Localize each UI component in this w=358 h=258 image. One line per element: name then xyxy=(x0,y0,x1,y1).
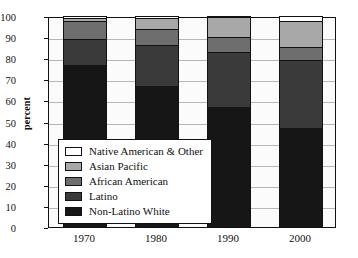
bar-segment[interactable] xyxy=(207,37,251,52)
y-axis-tick-label: 50 xyxy=(0,117,16,128)
x-axis-tick-label: 1990 xyxy=(193,232,263,244)
legend-item[interactable]: Native American & Other xyxy=(65,144,203,159)
x-axis-tick-label: 1980 xyxy=(121,232,191,244)
legend-item[interactable]: Asian Pacific xyxy=(65,159,203,174)
legend-swatch-icon xyxy=(65,147,82,156)
legend-item[interactable]: African American xyxy=(65,174,203,189)
legend-item-label: Native American & Other xyxy=(89,146,203,157)
y-axis-tick-label: 100 xyxy=(0,12,16,23)
bar-segment[interactable] xyxy=(63,39,107,64)
y-axis-tick-label: 80 xyxy=(0,54,16,65)
y-axis-tick-label: 90 xyxy=(0,33,16,44)
x-axis-tick-label: 2000 xyxy=(265,232,335,244)
stacked-bar-chart: percent 0102030405060708090100 197019801… xyxy=(0,0,358,258)
bar-segment[interactable] xyxy=(279,21,323,46)
bar-segment[interactable] xyxy=(63,21,107,39)
bar-segment[interactable] xyxy=(135,29,179,45)
bar-segment[interactable] xyxy=(279,60,323,128)
bar-segment[interactable] xyxy=(279,47,323,61)
bar-segment[interactable] xyxy=(207,17,251,37)
y-axis-title: percent xyxy=(21,84,32,144)
legend-item-label: African American xyxy=(89,176,168,187)
bar-segment[interactable] xyxy=(279,128,323,227)
legend-swatch-icon xyxy=(65,207,82,216)
legend-item-label: Asian Pacific xyxy=(89,161,148,172)
legend-item[interactable]: Latino xyxy=(65,189,203,204)
y-axis-tick-label: 10 xyxy=(0,201,16,212)
y-axis-tick-label: 20 xyxy=(0,180,16,191)
bar-segment[interactable] xyxy=(207,52,251,107)
y-axis-tick-label: 30 xyxy=(0,159,16,170)
legend-swatch-icon xyxy=(65,177,82,186)
legend-item-label: Non-Latino White xyxy=(89,206,170,217)
legend-swatch-icon xyxy=(65,162,82,171)
bar-2000[interactable] xyxy=(279,16,323,227)
x-axis-tick-label: 1970 xyxy=(49,232,119,244)
bar-segment[interactable] xyxy=(207,107,251,227)
legend-swatch-icon xyxy=(65,192,82,201)
y-axis-tick-label: 70 xyxy=(0,75,16,86)
y-axis-tick-mark xyxy=(44,228,48,229)
bar-1990[interactable] xyxy=(207,16,251,227)
y-axis-tick-label: 60 xyxy=(0,96,16,107)
bar-segment[interactable] xyxy=(135,45,179,86)
y-axis-tick-label: 0 xyxy=(0,223,16,234)
legend-item-label: Latino xyxy=(89,191,118,202)
legend-item[interactable]: Non-Latino White xyxy=(65,204,203,219)
bar-segment[interactable] xyxy=(135,18,179,29)
y-axis-tick-label: 40 xyxy=(0,138,16,149)
chart-legend: Native American & OtherAsian PacificAfri… xyxy=(58,139,212,224)
